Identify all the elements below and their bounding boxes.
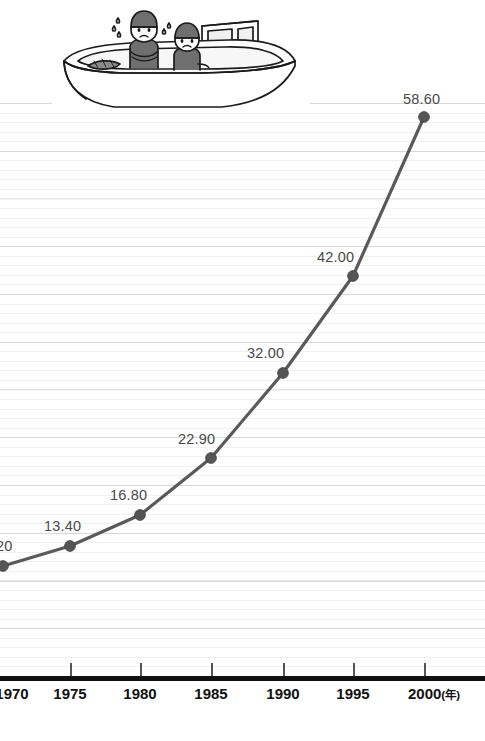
chart-plot bbox=[0, 0, 485, 741]
x-axis-unit-label: (年) bbox=[441, 689, 460, 701]
data-point-2000 bbox=[419, 112, 430, 123]
x-axis-tick-1985 bbox=[211, 663, 213, 676]
x-axis-label-1980: 1980 bbox=[123, 685, 156, 702]
data-label-1985: 22.90 bbox=[178, 431, 215, 447]
chart-page: 20 13.40 16.80 22.90 32.00 42.00 58.60 1… bbox=[0, 0, 485, 741]
x-axis-tick-2000 bbox=[424, 663, 426, 676]
x-axis-tick-1990 bbox=[283, 663, 285, 676]
data-label-1980: 16.80 bbox=[110, 487, 147, 503]
data-label-1990: 32.00 bbox=[247, 345, 284, 361]
x-axis-label-1975: 1975 bbox=[53, 685, 86, 702]
x-axis-tick-1975 bbox=[70, 663, 72, 676]
x-axis-label-2000-year: 2000 bbox=[408, 685, 441, 702]
data-point-1990 bbox=[278, 368, 289, 379]
data-label-1970: 20 bbox=[0, 538, 13, 554]
data-markers bbox=[0, 112, 429, 572]
x-axis-label-1985: 1985 bbox=[194, 685, 227, 702]
data-label-1995: 42.00 bbox=[317, 249, 354, 265]
data-point-1970 bbox=[0, 561, 8, 572]
data-label-1975: 13.40 bbox=[44, 518, 81, 534]
data-point-1995 bbox=[348, 271, 359, 282]
x-axis-line bbox=[0, 676, 485, 681]
x-axis-label-1990: 1990 bbox=[266, 685, 299, 702]
x-axis-tick-1995 bbox=[353, 663, 355, 676]
x-axis-label-1970: 1970 bbox=[0, 685, 29, 702]
data-point-1985 bbox=[206, 453, 217, 464]
x-axis-label-2000: 2000(年) bbox=[408, 685, 460, 702]
data-line bbox=[3, 117, 424, 566]
x-axis-label-1995: 1995 bbox=[336, 685, 369, 702]
data-label-2000: 58.60 bbox=[403, 91, 440, 107]
x-axis-tick-1980 bbox=[140, 663, 142, 676]
data-point-1975 bbox=[65, 541, 76, 552]
data-point-1980 bbox=[135, 510, 146, 521]
